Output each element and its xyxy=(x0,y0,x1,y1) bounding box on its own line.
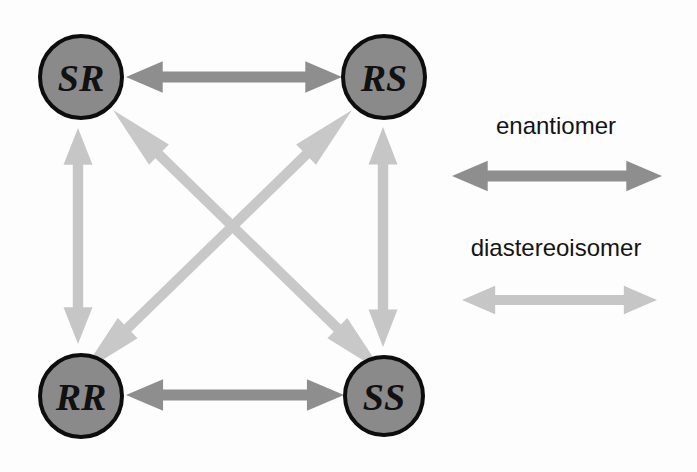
legend-arrow-enantiomer xyxy=(452,161,662,191)
node-sr[interactable]: SR xyxy=(40,36,122,118)
edge-sr-ss-diastereoisomer xyxy=(103,100,393,383)
node-rr-label: RR xyxy=(55,376,107,418)
edge-rs-ss-diastereoisomer xyxy=(369,127,398,347)
legend-arrow-diastereoisomer xyxy=(462,286,657,314)
node-ss[interactable]: SS xyxy=(345,357,423,435)
node-rs-label: RS xyxy=(360,57,407,99)
node-sr-label: SR xyxy=(58,57,104,99)
node-ss-label: SS xyxy=(363,376,405,418)
node-rr[interactable]: RR xyxy=(40,355,122,437)
edge-sr-rs-enantiomer xyxy=(126,61,342,92)
node-rs[interactable]: RS xyxy=(343,36,425,118)
legend-item-enantiomer: enantiomer xyxy=(452,112,662,191)
legend-label-enantiomer: enantiomer xyxy=(496,112,616,139)
legend-item-diastereoisomer: diastereoisomer xyxy=(462,234,657,314)
stereoisomer-diagram: SR RS RR SS enantiomer diastereoisomer xyxy=(0,0,697,472)
edge-rs-rr-diastereoisomer xyxy=(72,100,362,383)
diagram-canvas: SR RS RR SS enantiomer diastereoisomer xyxy=(0,0,697,472)
edge-sr-rr-diastereoisomer xyxy=(64,128,93,344)
edge-rr-ss-enantiomer xyxy=(126,379,344,410)
legend: enantiomer diastereoisomer xyxy=(452,112,662,314)
legend-label-diastereoisomer: diastereoisomer xyxy=(471,234,642,261)
